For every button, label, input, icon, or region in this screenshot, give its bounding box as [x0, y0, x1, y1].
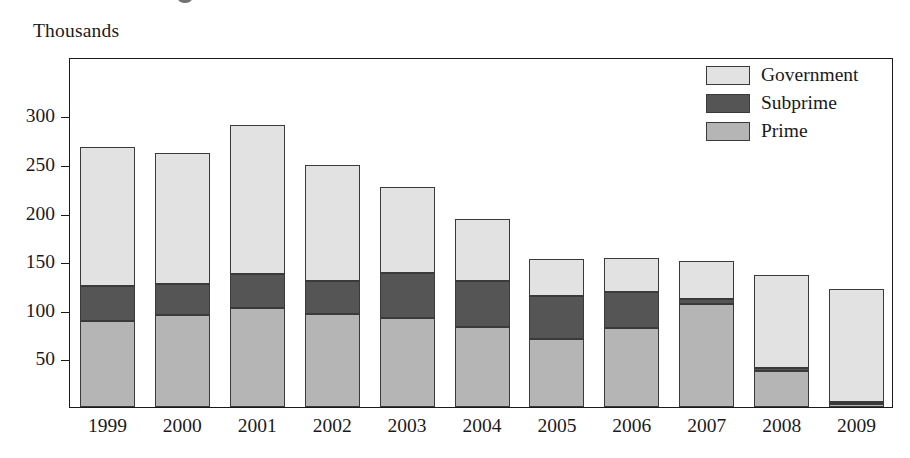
bar-group[interactable]: 2007	[679, 261, 734, 407]
y-axis-tick-label: 200	[26, 204, 55, 224]
x-axis-tick-label: 2007	[687, 416, 726, 436]
bar-group[interactable]: 2004	[455, 219, 510, 407]
y-axis-tick: 50	[61, 360, 70, 361]
bar-segment-prime[interactable]	[155, 315, 210, 407]
y-axis-tick: 200	[61, 215, 70, 216]
bar-segment-subprime[interactable]	[305, 281, 360, 314]
bar-segment-prime[interactable]	[230, 308, 285, 407]
bar-segment-subprime[interactable]	[155, 284, 210, 315]
bar-group[interactable]: 2002	[305, 165, 360, 407]
bar-segment-government[interactable]	[230, 125, 285, 274]
chart-plot-area: 50100150200250300 1999200020012002200320…	[69, 58, 893, 408]
bar-segment-subprime[interactable]	[380, 273, 435, 318]
x-axis-tick-label: 2006	[612, 416, 651, 436]
bar-group[interactable]: 1999	[80, 147, 135, 407]
bar-segment-prime[interactable]	[754, 371, 809, 407]
bar-segment-government[interactable]	[529, 259, 584, 296]
x-axis-tick-label: 2005	[537, 416, 576, 436]
bar-group[interactable]: 2006	[604, 258, 659, 407]
axis-unit-label: Thousands	[33, 20, 119, 42]
x-axis-tick-label: 2009	[837, 416, 876, 436]
bar-segment-government[interactable]	[305, 165, 360, 281]
bar-group[interactable]: 2000	[155, 153, 210, 407]
cropped-glyph-remnant	[178, 0, 192, 3]
bar-group[interactable]: 2009	[829, 289, 884, 407]
y-axis-tick-label: 250	[26, 155, 55, 175]
bar-group[interactable]: 2001	[230, 125, 285, 407]
bar-segment-prime[interactable]	[305, 314, 360, 407]
legend-label-prime: Prime	[761, 121, 808, 141]
x-axis-tick-label: 1999	[88, 416, 127, 436]
bar-segment-prime[interactable]	[80, 321, 135, 407]
bar-segment-government[interactable]	[80, 147, 135, 286]
bar-segment-prime[interactable]	[829, 404, 884, 407]
bar-segment-subprime[interactable]	[754, 368, 809, 371]
legend-item-prime[interactable]: Prime	[706, 120, 858, 142]
bar-segment-government[interactable]	[754, 275, 809, 368]
chart-legend: GovernmentSubprimePrime	[706, 64, 858, 142]
legend-label-subprime: Subprime	[761, 93, 837, 113]
bar-group[interactable]: 2005	[529, 259, 584, 407]
bar-segment-subprime[interactable]	[230, 274, 285, 308]
bar-segment-government[interactable]	[829, 289, 884, 402]
y-axis-tick-label: 300	[26, 106, 55, 126]
legend-swatch-prime	[706, 122, 750, 141]
bar-segment-prime[interactable]	[380, 318, 435, 407]
y-axis-tick-label: 50	[36, 349, 56, 369]
bar-segment-subprime[interactable]	[455, 281, 510, 328]
legend-label-government: Government	[761, 65, 858, 85]
y-axis-tick: 300	[61, 117, 70, 118]
bar-segment-prime[interactable]	[455, 327, 510, 407]
x-axis-tick-label: 2002	[313, 416, 352, 436]
bar-group[interactable]: 2003	[380, 187, 435, 407]
bar-segment-subprime[interactable]	[604, 292, 659, 328]
bar-segment-government[interactable]	[380, 187, 435, 273]
bar-segment-government[interactable]	[155, 153, 210, 283]
bar-segment-prime[interactable]	[604, 328, 659, 407]
bar-segment-subprime[interactable]	[80, 286, 135, 321]
legend-item-government[interactable]: Government	[706, 64, 858, 86]
x-axis-tick-label: 2008	[762, 416, 801, 436]
legend-swatch-subprime	[706, 94, 750, 113]
bar-segment-government[interactable]	[679, 261, 734, 299]
bar-segment-subprime[interactable]	[529, 296, 584, 339]
y-axis-tick: 150	[61, 263, 70, 264]
y-axis-tick-label: 100	[26, 301, 55, 321]
y-axis-tick: 100	[61, 312, 70, 313]
x-axis-tick-label: 2004	[463, 416, 502, 436]
bar-segment-prime[interactable]	[529, 339, 584, 407]
y-axis-tick: 250	[61, 166, 70, 167]
legend-swatch-government	[706, 66, 750, 85]
legend-item-subprime[interactable]: Subprime	[706, 92, 858, 114]
bar-segment-prime[interactable]	[679, 304, 734, 407]
x-axis-tick-label: 2003	[388, 416, 427, 436]
bar-group[interactable]: 2008	[754, 275, 809, 407]
bar-segment-government[interactable]	[604, 258, 659, 292]
bar-segment-government[interactable]	[455, 219, 510, 280]
bar-segment-subprime[interactable]	[679, 299, 734, 304]
x-axis-tick-label: 2000	[163, 416, 202, 436]
y-axis-tick-label: 150	[26, 252, 55, 272]
x-axis-tick-label: 2001	[238, 416, 277, 436]
